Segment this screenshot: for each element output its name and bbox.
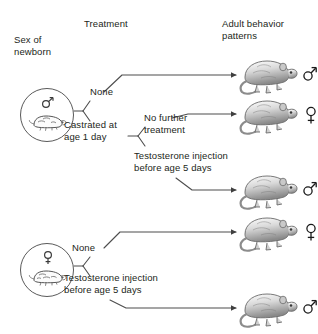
female-symbol-icon <box>303 104 318 126</box>
outcome-rat-1 <box>239 55 301 97</box>
treatment-label-male-testosterone: Testosterone injection before age 5 days <box>134 150 254 173</box>
male-symbol-icon <box>302 296 318 318</box>
treatment-label-male-no-further: No further treatment <box>144 112 208 135</box>
treatment-label-female-testosterone: Testosterone injection before age 5 days <box>64 272 184 295</box>
adult-rat-icon <box>239 55 301 97</box>
outcome-1-male-symbol <box>302 63 318 85</box>
adult-rat-icon <box>239 212 301 254</box>
outcome-rat-3 <box>239 170 301 212</box>
treatment-label-female-none: None <box>72 242 95 254</box>
treatment-label-male-none: None <box>90 86 113 98</box>
outcome-3-male-symbol <box>302 178 318 200</box>
outcome-rat-4 <box>239 212 301 254</box>
header-adult-behavior: Adult behavior patterns <box>222 18 314 41</box>
male-symbol-icon <box>302 63 318 85</box>
header-treatment: Treatment <box>84 18 174 30</box>
adult-rat-icon <box>239 288 301 330</box>
male-symbol-icon <box>302 178 318 200</box>
header-sex-of-newborn: Sex of newborn <box>14 34 84 57</box>
outcome-4-female-symbol <box>303 221 318 243</box>
outcome-5-male-symbol <box>302 296 318 318</box>
adult-rat-icon <box>239 95 301 137</box>
adult-rat-icon <box>239 170 301 212</box>
female-symbol-icon <box>303 221 318 243</box>
diagram-figure: Sex of newborn Treatment Adult behavior … <box>0 0 318 334</box>
treatment-label-male-castrated: Castrated at age 1 day <box>64 119 138 142</box>
outcome-rat-2 <box>239 95 301 137</box>
outcome-rat-5 <box>239 288 301 330</box>
outcome-2-female-symbol <box>303 104 318 126</box>
